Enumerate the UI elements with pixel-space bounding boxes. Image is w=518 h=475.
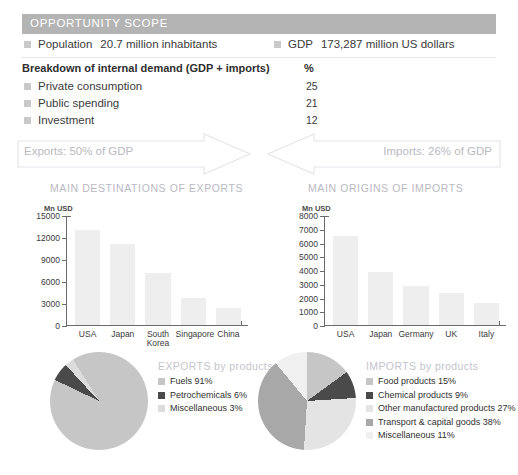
legend-label: Petrochemicals 6%: [170, 390, 247, 400]
y-axis-tick-label: 7000: [299, 225, 318, 235]
x-axis-tick-label: South Korea: [140, 330, 175, 348]
breakdown-value: 21: [306, 97, 318, 109]
x-axis-tick-label: China: [211, 330, 246, 339]
y-axis-tick: [62, 304, 66, 305]
population-entry: Population20.7 million inhabitants: [24, 38, 217, 50]
infographic-page: OPPORTUNITY SCOPE Population20.7 million…: [0, 0, 518, 475]
y-axis-line: [324, 216, 325, 327]
legend-swatch: [366, 378, 373, 385]
y-axis-tick: [62, 216, 66, 217]
bar: [75, 230, 100, 325]
breakdown-label: Private consumption: [38, 80, 142, 92]
x-axis-tick-label: USA: [328, 330, 363, 339]
opportunity-scope-panel: OPPORTUNITY SCOPE Population20.7 million…: [22, 14, 496, 58]
legend-label: Fuels 91%: [170, 376, 213, 386]
bar: [145, 273, 170, 325]
breakdown-row: Public spending: [24, 97, 119, 109]
y-axis-tick-label: 1000: [299, 307, 318, 317]
exports-share-label: Exports: 50% of GDP: [24, 145, 133, 157]
trade-flow-arrows: Exports: 50% of GDP Imports: 26% of GDP: [0, 133, 518, 175]
y-axis-tick-label: 12000: [36, 233, 60, 243]
gdp-entry: GDP173,287 million US dollars: [274, 38, 455, 50]
x-axis-line: [66, 325, 248, 326]
y-axis-tick: [320, 285, 324, 286]
bar: [216, 308, 241, 325]
legend-swatch: [158, 378, 165, 385]
legend-item: Miscellaneous 11%: [366, 430, 516, 440]
x-axis-tick-label: Germany: [398, 330, 433, 339]
y-axis-tick-label: 5000: [299, 252, 318, 262]
x-axis-cap: [241, 321, 242, 326]
legend-swatch: [158, 405, 165, 412]
exports-bar-chart: 03000600090001200015000USAJapanSouth Kor…: [22, 212, 252, 352]
legend-label: Food products 15%: [378, 376, 456, 386]
imports-share-label: Imports: 26% of GDP: [383, 145, 492, 157]
y-axis-tick: [320, 257, 324, 258]
x-axis-tick-label: Singapore: [176, 330, 211, 339]
imports-pie-legend-title: IMPORTS by products: [366, 360, 516, 372]
breakdown-unit: %: [304, 62, 314, 74]
breakdown-value: 12: [306, 114, 318, 126]
y-axis-tick: [62, 238, 66, 239]
imports-pie-legend-items: Food products 15%Chemical products 9%Oth…: [366, 376, 516, 440]
breakdown-row: Private consumption: [24, 80, 142, 92]
bar: [403, 286, 428, 325]
y-axis-tick-label: 4000: [299, 266, 318, 276]
legend-swatch: [366, 432, 373, 439]
y-axis-tick-label: 3000: [41, 299, 60, 309]
breakdown-label: Public spending: [38, 97, 119, 109]
y-axis-cap: [66, 216, 71, 217]
bar: [110, 244, 135, 325]
legend-label: Miscellaneous 3%: [170, 403, 243, 413]
y-axis-tick-label: 0: [313, 321, 318, 331]
x-axis-line: [324, 325, 506, 326]
legend-label: Other manufactured products 27%: [378, 403, 516, 413]
imports-pie-legend: IMPORTS by products Food products 15%Che…: [366, 360, 516, 444]
legend-swatch: [366, 392, 373, 399]
legend-item: Chemical products 9%: [366, 390, 516, 400]
x-axis-cap: [499, 321, 500, 326]
y-axis-tick: [320, 299, 324, 300]
y-axis-tick-label: 6000: [299, 239, 318, 249]
legend-swatch: [366, 405, 373, 412]
x-axis-tick-label: USA: [70, 330, 105, 339]
y-axis-tick-label: 3000: [299, 280, 318, 290]
breakdown-value: 25: [306, 80, 318, 92]
square-bullet-icon: [24, 100, 31, 107]
x-axis-tick-label: Japan: [105, 330, 140, 339]
y-axis-cap: [324, 216, 329, 217]
square-bullet-icon: [24, 41, 31, 48]
y-axis-tick: [320, 216, 324, 217]
legend-label: Transport & capital goods 38%: [378, 417, 501, 427]
y-axis-tick: [320, 230, 324, 231]
breakdown-row: Investment: [24, 114, 94, 126]
y-axis-tick: [62, 282, 66, 283]
exports-chart-title: MAIN DESTINATIONS OF EXPORTS: [50, 182, 243, 194]
legend-item: Food products 15%: [366, 376, 516, 386]
x-axis-tick-label: UK: [434, 330, 469, 339]
bar: [474, 303, 499, 325]
bar: [439, 293, 464, 325]
x-axis-tick-label: Japan: [363, 330, 398, 339]
bar: [333, 236, 358, 325]
breakdown-label: Investment: [38, 114, 94, 126]
imports-chart-title: MAIN ORIGINS OF IMPORTS: [308, 182, 463, 194]
y-axis-tick: [320, 326, 324, 327]
y-axis-tick: [62, 326, 66, 327]
imports-bar-chart: 010002000300040005000600070008000USAJapa…: [280, 212, 510, 352]
gdp-label: GDP: [288, 38, 313, 50]
population-label: Population: [38, 38, 92, 50]
population-value: 20.7 million inhabitants: [100, 38, 217, 50]
y-axis-tick-label: 6000: [41, 277, 60, 287]
square-bullet-icon: [24, 117, 31, 124]
legend-item: Other manufactured products 27%: [366, 403, 516, 413]
y-axis-tick: [62, 260, 66, 261]
scope-key-figures-row: Population20.7 million inhabitants GDP17…: [22, 35, 496, 58]
opportunity-scope-header: OPPORTUNITY SCOPE: [22, 14, 496, 34]
bar: [368, 272, 393, 325]
y-axis-tick-label: 0: [55, 321, 60, 331]
y-axis-tick: [320, 244, 324, 245]
y-axis-tick-label: 9000: [41, 255, 60, 265]
imports-pie-chart: [258, 352, 356, 450]
legend-label: Chemical products 9%: [378, 390, 468, 400]
